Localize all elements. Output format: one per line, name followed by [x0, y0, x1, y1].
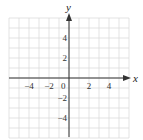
x-tick-label: 0	[61, 81, 66, 91]
y-tick-label: −4	[57, 113, 67, 123]
y-tick-label: 2	[63, 53, 68, 63]
coordinate-plane: x y −4−202442−2−4	[0, 0, 143, 140]
x-tick-label: 4	[107, 81, 112, 91]
x-tick-label: −4	[24, 81, 34, 91]
x-axis-label: x	[132, 72, 138, 84]
y-axis-label: y	[65, 1, 71, 13]
x-axis-arrow-icon	[123, 75, 131, 81]
y-tick-label: 4	[63, 33, 68, 43]
y-tick-label: −2	[57, 93, 67, 103]
x-tick-label: 2	[87, 81, 92, 91]
y-axis-arrow-icon	[66, 13, 72, 21]
x-tick-label: −2	[44, 81, 54, 91]
